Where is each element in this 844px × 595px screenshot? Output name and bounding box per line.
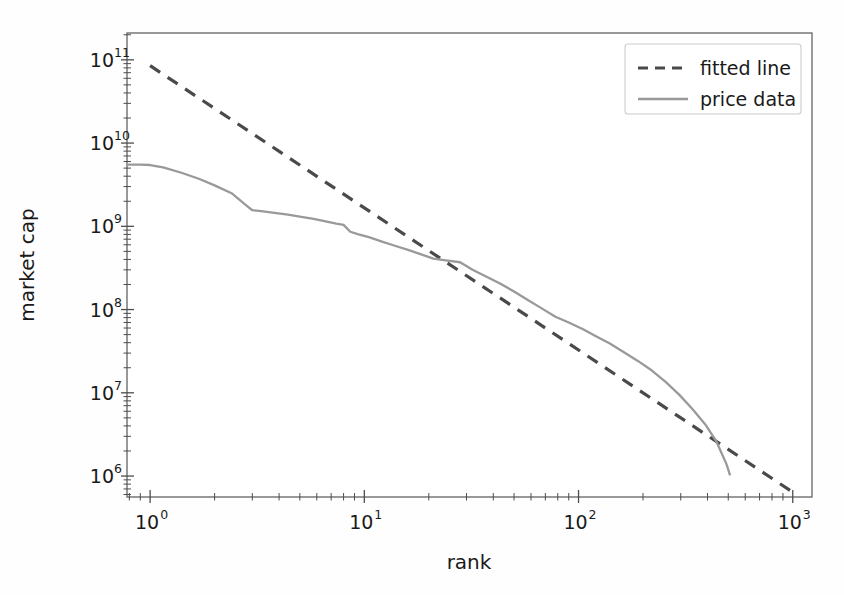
chart-legend[interactable]: fitted lineprice data: [625, 44, 801, 114]
svg-text:10: 10: [349, 511, 373, 533]
svg-text:8: 8: [114, 295, 122, 310]
chart-figure: 10610710810910101011 100101102103 rank m…: [0, 0, 844, 595]
legend-label-price-data: price data: [700, 88, 796, 110]
svg-text:0: 0: [160, 507, 168, 522]
svg-text:10: 10: [135, 511, 159, 533]
svg-text:10: 10: [90, 465, 114, 487]
x-axis-title: rank: [447, 550, 492, 574]
svg-text:3: 3: [803, 507, 811, 522]
svg-text:10: 10: [90, 382, 114, 404]
svg-text:11: 11: [114, 45, 130, 60]
svg-text:10: 10: [90, 299, 114, 321]
svg-text:10: 10: [778, 511, 802, 533]
svg-text:10: 10: [90, 132, 114, 154]
legend-label-fitted-line: fitted line: [700, 57, 791, 79]
svg-text:6: 6: [114, 461, 122, 476]
log-log-plot: 10610710810910101011 100101102103 rank m…: [0, 0, 844, 595]
svg-text:10: 10: [114, 128, 130, 143]
svg-text:9: 9: [114, 211, 122, 226]
svg-text:10: 10: [90, 49, 114, 71]
y-axis-title: market cap: [15, 208, 39, 321]
svg-text:1: 1: [374, 507, 382, 522]
svg-text:7: 7: [114, 378, 122, 393]
svg-text:10: 10: [90, 215, 114, 237]
svg-text:10: 10: [563, 511, 587, 533]
svg-text:2: 2: [589, 507, 597, 522]
